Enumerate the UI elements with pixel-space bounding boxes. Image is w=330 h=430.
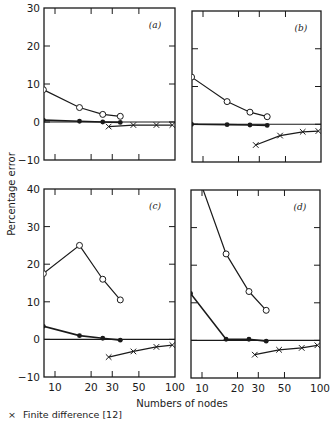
filled-circle-marker [265,123,270,128]
filled-circle-marker [247,337,252,342]
open-circle-marker [100,111,106,117]
series-line [192,160,266,310]
filled-circle-marker [118,120,123,125]
plot-frame [192,11,321,162]
open-circle-marker [246,289,252,295]
y-tick-label: 30 [27,2,40,14]
open-circle-marker [224,99,230,105]
x-tick-label: 100 [310,382,330,394]
open-circle-marker [247,109,253,115]
series-line [256,131,319,145]
y-tick-label: 0 [33,333,40,345]
filled-circle-marker [248,123,253,128]
filled-circle-marker [77,119,82,124]
filled-circle-marker [77,333,82,338]
panel-label: (a) [149,20,162,30]
y-tick-label: 20 [27,258,40,270]
panel-label: (d) [294,202,307,212]
y-tick-label: 0 [33,116,40,128]
open-circle-marker [117,113,123,119]
open-circle-marker [223,251,229,257]
x-axis-title: Numbers of nodes [136,398,228,409]
open-circle-marker [76,105,82,111]
open-circle-marker [76,242,82,248]
x-marker [253,142,259,148]
legend: × Finite difference [12] [8,409,122,420]
series-line [191,293,267,341]
series-line [109,125,173,127]
y-tick-label: 40 [27,183,40,195]
x-tick-label: 30 [252,382,265,394]
panel-b: (b) [189,11,322,162]
x-tick-label: 30 [106,381,119,393]
x-marker-icon: × [8,409,20,420]
filled-circle-marker [100,336,105,341]
y-tick-label: −10 [18,371,40,383]
series-line [109,345,173,357]
filled-circle-marker [264,339,269,344]
figure: −100102030(a)(b)−1001020304010203050100(… [0,0,330,430]
series-line [255,345,318,354]
plot-frame [44,189,175,377]
y-tick-label: 10 [27,296,40,308]
x-tick-label: 50 [132,381,145,393]
x-tick-label: 50 [278,382,291,394]
x-tick-label: 100 [165,381,185,393]
panel-a: −100102030(a) [18,2,175,166]
filled-circle-marker [225,122,230,127]
x-tick-label: 10 [195,382,208,394]
y-tick-label: −10 [18,154,40,166]
panel-label: (b) [295,23,308,33]
series-line [43,245,120,300]
y-tick-label: 20 [27,40,40,52]
plot-frame [191,190,320,378]
filled-circle-marker [100,120,105,125]
y-tick-label: 10 [27,78,40,90]
panel-c: −1001020304010203050100(c) [18,183,185,393]
open-circle-marker [263,307,269,313]
panel-label: (c) [149,201,162,211]
open-circle-marker [264,114,270,120]
y-tick-label: 30 [27,221,40,233]
panel-d: 10203050100(d) [188,160,330,394]
series-line [192,77,268,117]
legend-label: Finite difference [12] [23,409,122,420]
series-line [43,90,120,117]
y-axis-title: Percentage error [6,151,17,236]
series-line [43,326,120,340]
x-tick-label: 10 [48,381,61,393]
filled-circle-marker [118,338,123,343]
plot-frame [44,8,175,160]
open-circle-marker [100,276,106,282]
open-circle-marker [117,297,123,303]
x-tick-label: 20 [231,382,244,394]
x-tick-label: 20 [84,381,97,393]
filled-circle-marker [224,337,229,342]
